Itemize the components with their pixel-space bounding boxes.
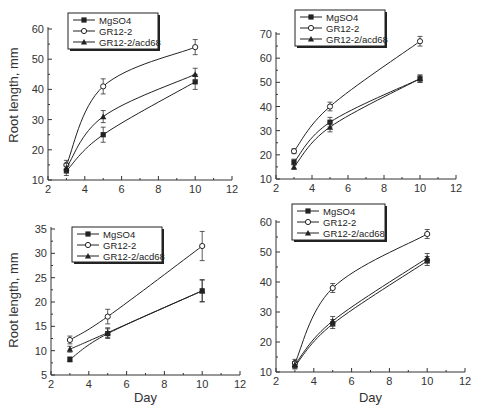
x-tick-label: 4 bbox=[309, 182, 315, 194]
series-mgso4 bbox=[291, 75, 422, 165]
y-tick-label: 70 bbox=[260, 28, 272, 40]
legend: MgSO4GR12-2GR12-2/acd68 bbox=[292, 204, 387, 242]
x-tick-label: 2 bbox=[48, 378, 54, 390]
square-marker-icon bbox=[308, 14, 313, 19]
circle-marker-icon bbox=[305, 219, 310, 224]
y-tick-label: 60 bbox=[260, 216, 272, 228]
y-tick-label: 20 bbox=[35, 296, 47, 308]
series-gr12-2-acd68 bbox=[63, 68, 198, 172]
y-tick-label: 15 bbox=[35, 320, 47, 332]
y-tick-label: 30 bbox=[35, 247, 47, 259]
square-marker-icon bbox=[67, 357, 72, 362]
circle-marker-icon bbox=[425, 231, 430, 236]
y-tick-label: 10 bbox=[260, 173, 272, 185]
x-tick-label: 10 bbox=[421, 375, 433, 387]
x-tick-label: 6 bbox=[119, 183, 125, 195]
legend-entry-label: GR12-2 bbox=[99, 26, 132, 37]
x-axis-label: Day bbox=[359, 390, 383, 405]
legend-entry-label: GR12-2/acd68 bbox=[326, 34, 388, 45]
y-tick-label: 40 bbox=[32, 83, 44, 95]
circle-marker-icon bbox=[200, 243, 205, 248]
x-tick-label: 12 bbox=[226, 183, 238, 195]
circle-marker-icon bbox=[67, 337, 72, 342]
legend-entry-label: MgSO4 bbox=[99, 15, 131, 26]
y-tick-label: 30 bbox=[32, 114, 44, 126]
circle-marker-icon bbox=[81, 28, 86, 33]
square-marker-icon bbox=[305, 208, 310, 213]
y-tick-label: 20 bbox=[260, 149, 272, 161]
y-tick-label: 10 bbox=[32, 174, 44, 186]
circle-marker-icon bbox=[193, 45, 198, 50]
triangle-marker-icon bbox=[424, 255, 430, 261]
circle-marker-icon bbox=[417, 39, 422, 44]
x-tick-label: 2 bbox=[45, 183, 51, 195]
circle-marker-icon bbox=[291, 149, 296, 154]
circle-marker-icon bbox=[308, 25, 313, 30]
x-tick-label: 10 bbox=[414, 182, 426, 194]
legend-entry-label: GR12-2/acd68 bbox=[323, 228, 385, 239]
x-tick-label: 2 bbox=[273, 375, 279, 387]
square-marker-icon bbox=[101, 132, 106, 137]
legend-entry-label: MgSO4 bbox=[326, 12, 358, 23]
x-tick-label: 4 bbox=[311, 375, 317, 387]
x-tick-label: 2 bbox=[273, 182, 279, 194]
circle-marker-icon bbox=[105, 314, 110, 319]
legend-entry-label: GR12-2 bbox=[326, 23, 359, 34]
y-axis-label: Root length, mm bbox=[6, 47, 21, 142]
series-mgso4 bbox=[292, 257, 430, 370]
triangle-marker-icon bbox=[100, 113, 106, 119]
legend-entry-label: GR12-2/acd68 bbox=[103, 251, 165, 262]
x-tick-label: 4 bbox=[86, 378, 92, 390]
legend: MgSO4GR12-2GR12-2/acd68 bbox=[68, 13, 161, 51]
x-tick-label: 12 bbox=[450, 182, 462, 194]
chart-panel-top-left: 24681012102030405060Root length, mmMgSO4… bbox=[6, 13, 238, 195]
circle-marker-icon bbox=[101, 84, 106, 89]
y-tick-label: 35 bbox=[35, 223, 47, 235]
series-gr12-2 bbox=[291, 36, 422, 153]
y-tick-label: 30 bbox=[260, 306, 272, 318]
series-gr12-2 bbox=[64, 40, 198, 170]
square-marker-icon bbox=[85, 231, 90, 236]
triangle-marker-icon bbox=[67, 346, 73, 352]
legend-entry-label: GR12-2 bbox=[103, 240, 136, 251]
y-tick-label: 60 bbox=[260, 52, 272, 64]
circle-marker-icon bbox=[85, 242, 90, 247]
x-tick-label: 6 bbox=[124, 378, 130, 390]
circle-marker-icon bbox=[327, 104, 332, 109]
y-tick-label: 10 bbox=[260, 366, 272, 378]
y-tick-label: 60 bbox=[32, 23, 44, 35]
figure-root-length-panels: 24681012102030405060Root length, mmMgSO4… bbox=[0, 0, 481, 410]
series-mgso4 bbox=[64, 74, 198, 175]
y-tick-label: 50 bbox=[32, 53, 44, 65]
series-gr12-2-acd68 bbox=[291, 75, 423, 169]
y-tick-label: 50 bbox=[260, 246, 272, 258]
x-axis-label: Day bbox=[134, 390, 158, 405]
x-tick-label: 8 bbox=[381, 182, 387, 194]
x-tick-label: 8 bbox=[161, 378, 167, 390]
legend: MgSO4GR12-2GR12-2/acd68 bbox=[295, 10, 388, 48]
x-tick-label: 6 bbox=[349, 375, 355, 387]
chart-panel-top-right: 2468101210203040506070MgSO4GR12-2GR12-2/… bbox=[260, 10, 462, 194]
y-tick-label: 20 bbox=[32, 144, 44, 156]
y-tick-label: 5 bbox=[41, 369, 47, 381]
x-tick-label: 6 bbox=[345, 182, 351, 194]
y-tick-label: 25 bbox=[35, 272, 47, 284]
series-mgso4 bbox=[67, 280, 205, 362]
legend-entry-label: GR12-2 bbox=[323, 217, 356, 228]
x-tick-label: 12 bbox=[459, 375, 471, 387]
legend-entry-label: MgSO4 bbox=[323, 206, 355, 217]
x-tick-label: 8 bbox=[386, 375, 392, 387]
y-tick-label: 10 bbox=[35, 345, 47, 357]
y-tick-label: 40 bbox=[260, 101, 272, 113]
chart-panel-bottom-left: 246810125101520253035Root length, mmDayM… bbox=[6, 223, 246, 405]
y-axis-label: Root length, mm bbox=[6, 252, 21, 347]
series-gr12-2 bbox=[292, 230, 430, 367]
x-tick-label: 10 bbox=[189, 183, 201, 195]
y-tick-label: 50 bbox=[260, 76, 272, 88]
x-tick-label: 12 bbox=[234, 378, 246, 390]
legend-entry-label: MgSO4 bbox=[103, 229, 135, 240]
x-tick-label: 4 bbox=[82, 183, 88, 195]
series-gr12-2-acd68 bbox=[292, 254, 431, 368]
y-tick-label: 20 bbox=[260, 336, 272, 348]
y-tick-label: 40 bbox=[260, 276, 272, 288]
